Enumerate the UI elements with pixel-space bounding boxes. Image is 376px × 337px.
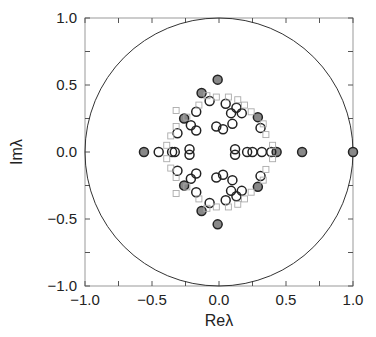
filled-circle-point: [213, 220, 222, 229]
circle-point: [248, 148, 257, 157]
filled-circle-point: [253, 182, 262, 191]
x-axis-label: Reλ: [205, 312, 233, 329]
filled-circle-point: [139, 148, 148, 157]
y-tick-label: 0.0: [56, 143, 77, 160]
circle-point: [228, 119, 237, 128]
circle-point: [237, 109, 246, 118]
unit-circle: [85, 18, 353, 286]
square-point: [164, 156, 170, 162]
square-point: [173, 107, 179, 113]
square-point: [173, 191, 179, 197]
circle-point: [173, 166, 182, 175]
circle-point: [228, 176, 237, 185]
x-tick-label: 1.0: [343, 291, 364, 308]
circle-point: [232, 103, 241, 112]
circle-point: [186, 174, 195, 183]
eigenvalue-scatter-chart: −1.0−0.50.00.51.0 −1.0−0.50.00.51.0 Reλ …: [0, 0, 376, 337]
circle-point: [186, 121, 195, 130]
circle-point: [227, 186, 236, 195]
data-marks: [139, 75, 357, 229]
x-tick-label: 0.5: [276, 291, 297, 308]
y-tick-label: 0.5: [56, 76, 77, 93]
circle-point: [154, 148, 163, 157]
circle-point: [231, 150, 240, 159]
circle-point: [185, 150, 194, 159]
square-point: [263, 166, 269, 172]
y-tick-label: −1.0: [47, 277, 77, 294]
circle-point: [192, 188, 201, 197]
square-point: [263, 132, 269, 138]
y-tick-labels: −1.0−0.50.00.51.0: [47, 9, 77, 294]
y-tick-label: −0.5: [47, 210, 77, 227]
y-axis-label: Imλ: [8, 139, 25, 165]
x-tick-labels: −1.0−0.50.00.51.0: [70, 291, 363, 308]
circle-point: [192, 107, 201, 116]
square-point: [248, 109, 254, 115]
circle-point: [221, 99, 230, 108]
axis-ticks: [85, 18, 353, 286]
circle-point: [237, 186, 246, 195]
filled-circle-point: [253, 113, 262, 122]
square-point: [235, 201, 241, 207]
square-point: [235, 97, 241, 103]
square-point: [248, 189, 254, 195]
circle-point: [192, 169, 201, 178]
y-tick-label: 1.0: [56, 9, 77, 26]
square-point: [241, 102, 247, 108]
circle-point: [232, 192, 241, 201]
x-tick-label: −0.5: [137, 291, 167, 308]
circle-point: [192, 126, 201, 135]
circle-point: [173, 129, 182, 138]
filled-circle-point: [349, 148, 358, 157]
square-point: [164, 142, 170, 148]
plot-frame: [85, 18, 353, 286]
circle-point: [221, 196, 230, 205]
circle-point: [257, 148, 266, 157]
square-point: [241, 196, 247, 202]
filled-circle-point: [213, 75, 222, 84]
circle-point: [227, 109, 236, 118]
filled-circle-point: [298, 148, 307, 157]
x-tick-label: 0.0: [209, 291, 230, 308]
